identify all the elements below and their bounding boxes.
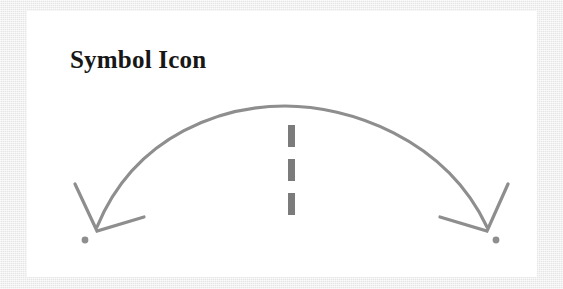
- arrow-left-down-icon: [75, 184, 144, 231]
- divider-dash: [288, 159, 295, 181]
- screenshot-root: Symbol Icon: [0, 0, 563, 289]
- symbol-icon-figure: [27, 11, 537, 277]
- right-endpoint-dot: [493, 237, 500, 244]
- symbol-icon-card: Symbol Icon: [27, 11, 537, 277]
- divider-dash: [288, 193, 295, 215]
- divider-dash: [288, 125, 295, 147]
- arrow-right-down-icon: [440, 184, 508, 231]
- dashed-divider: [288, 125, 295, 215]
- left-endpoint-dot: [82, 237, 89, 244]
